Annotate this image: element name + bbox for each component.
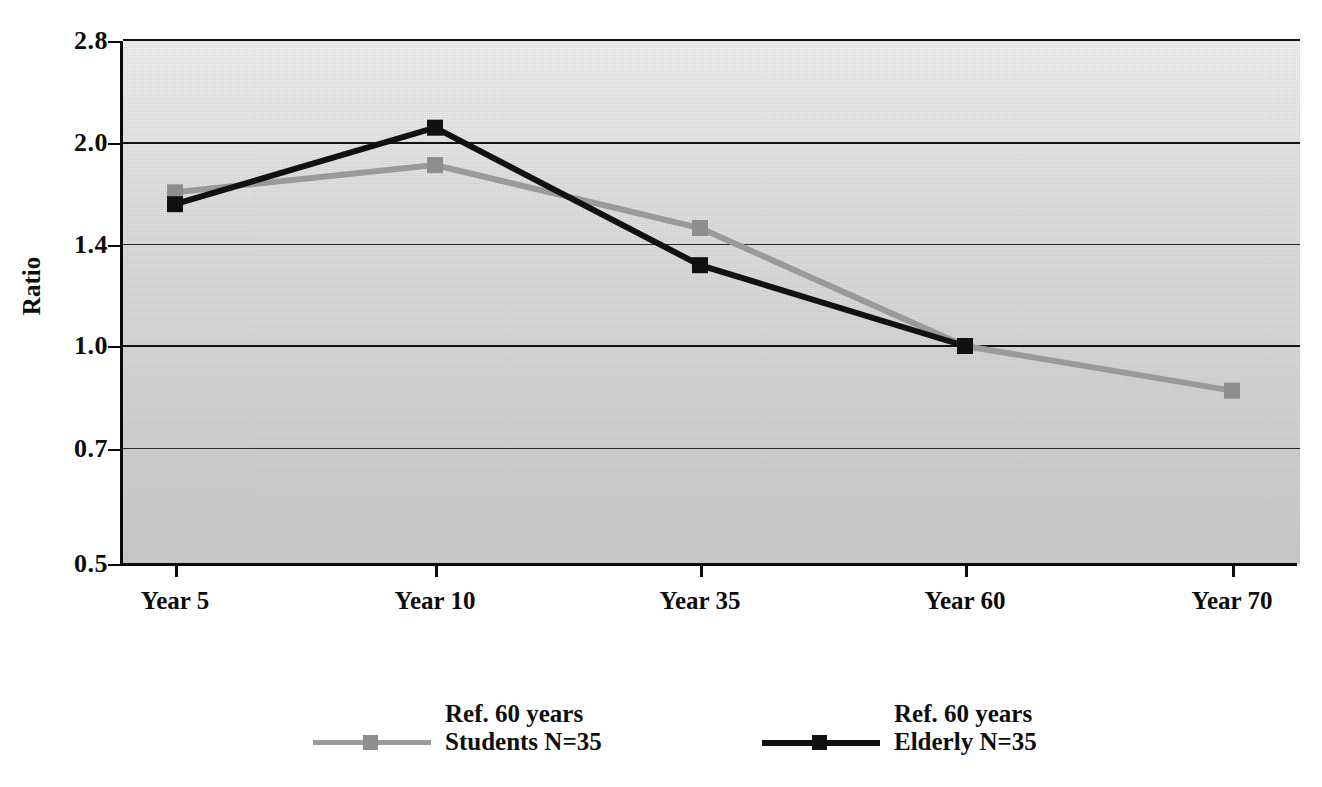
x-tick-mark-year-70 [1232, 564, 1235, 577]
gridline-1-4 [123, 244, 1300, 245]
y-axis-title: Ratio [18, 206, 46, 366]
legend-label-line1: Ref. 60 years [445, 700, 602, 728]
plot-area [120, 41, 1300, 564]
x-tick-label-year-10: Year 10 [335, 587, 535, 615]
y-tick-mark [108, 245, 123, 247]
x-tick-label-year-70: Year 70 [1132, 587, 1322, 615]
y-tick-label: 0.5 [40, 551, 108, 577]
legend-entry-students: Ref. 60 years Students N=35 [313, 700, 602, 756]
x-axis-line [120, 563, 1297, 566]
y-tick-mark [108, 143, 123, 145]
gridline-0-7 [123, 448, 1300, 449]
legend-marker-icon [363, 735, 378, 750]
legend-label-elderly: Ref. 60 years Elderly N=35 [894, 700, 1037, 756]
gridline-2-8 [123, 39, 1300, 41]
legend-entry-elderly: Ref. 60 years Elderly N=35 [762, 700, 1037, 756]
gridline-2-0 [123, 142, 1300, 144]
x-tick-mark-year-60 [965, 564, 968, 577]
gridline-1-0 [123, 345, 1300, 347]
legend-marker-icon [812, 735, 827, 750]
legend-label-line1: Ref. 60 years [894, 700, 1037, 728]
y-tick-label: 2.8 [40, 28, 108, 54]
x-tick-mark-year-5 [175, 564, 178, 577]
x-tick-label-year-60: Year 60 [865, 587, 1065, 615]
y-tick-mark [108, 449, 123, 451]
plot-texture [123, 41, 1300, 564]
y-tick-label: 1.4 [40, 232, 108, 258]
y-tick-mark [108, 346, 123, 348]
x-tick-mark-year-35 [700, 564, 703, 577]
legend-swatch-elderly [762, 726, 880, 756]
legend-label-line2: Students N=35 [445, 728, 602, 756]
legend-swatch-students [313, 726, 431, 756]
legend-label-students: Ref. 60 years Students N=35 [445, 700, 602, 756]
y-tick-label: 0.7 [40, 436, 108, 462]
y-tick-mark [108, 41, 123, 43]
x-tick-label-year-5: Year 5 [75, 587, 275, 615]
y-tick-label: 2.0 [40, 130, 108, 156]
x-tick-mark-year-10 [435, 564, 438, 577]
y-tick-mark [108, 564, 123, 566]
chart-legend: Ref. 60 years Students N=35 Ref. 60 year… [0, 700, 1322, 780]
y-tick-label: 1.0 [40, 333, 108, 359]
x-tick-label-year-35: Year 35 [600, 587, 800, 615]
chart-figure: 2.8 2.0 1.4 1.0 0.7 0.5 Ratio Year 5 Yea… [0, 0, 1322, 787]
legend-label-line2: Elderly N=35 [894, 728, 1037, 756]
